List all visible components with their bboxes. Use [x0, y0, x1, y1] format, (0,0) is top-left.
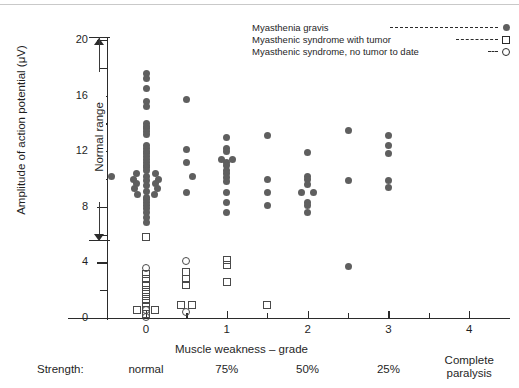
strength-value: normal: [106, 363, 186, 375]
data-point-series-1: [133, 306, 141, 314]
data-point-series-0: [304, 209, 311, 216]
data-point-series-0: [223, 148, 230, 155]
normal-range-label: Normal range: [92, 72, 106, 202]
y-tick-label: 4: [62, 255, 88, 267]
data-point-series-0: [385, 184, 392, 191]
data-point-series-0: [310, 189, 317, 196]
data-point-series-0: [223, 189, 230, 196]
y-tick-minor: [100, 290, 107, 291]
data-point-series-2: [182, 308, 190, 316]
y-tick-major: [97, 262, 107, 263]
legend-item: Myasthenia gravis: [252, 22, 510, 33]
data-point-series-0: [143, 131, 150, 138]
data-point-series-0: [108, 173, 115, 180]
x-axis-line: [68, 318, 510, 319]
data-point-series-0: [143, 85, 150, 92]
data-point-series-0: [298, 189, 305, 196]
legend-marker-filled-circle: [503, 24, 510, 31]
data-points-layer: [108, 40, 438, 318]
data-point-series-0: [189, 173, 196, 180]
strength-value: Completeparalysis: [429, 354, 509, 379]
x-tick-label: 3: [371, 323, 405, 335]
legend-item: Myasthenic syndrome, no tumor to date: [252, 46, 510, 57]
legend-dash: [488, 51, 498, 52]
data-point-series-1: [188, 301, 196, 309]
data-point-series-1: [223, 278, 231, 286]
data-point-series-0: [385, 142, 392, 149]
legend-item: Myasthenic syndrome with tumor: [252, 34, 510, 45]
y-tick-label: 12: [62, 144, 88, 156]
data-point-series-2: [142, 313, 150, 321]
data-point-series-0: [223, 134, 230, 141]
data-point-series-2: [182, 257, 190, 265]
data-point-series-1: [223, 261, 231, 269]
y-tick-label: 8: [62, 200, 88, 212]
legend-label: Myasthenic syndrome, no tumor to date: [252, 46, 419, 57]
chart-figure: 048121620 01234 Amplitude of action pote…: [0, 0, 519, 388]
x-tick-label: 1: [210, 323, 244, 335]
y-tick-label: 16: [62, 89, 88, 101]
data-point-series-0: [264, 189, 271, 196]
page-top-rule: [0, 4, 519, 5]
x-tick-label: 0: [129, 323, 163, 335]
data-point-series-0: [264, 132, 271, 139]
legend-dash: [456, 39, 498, 40]
y-tick-label: 0: [62, 311, 88, 323]
y-tick-label: 20: [62, 33, 88, 45]
strength-row-label: Strength:: [37, 363, 84, 375]
data-point-series-2: [142, 264, 150, 272]
data-point-series-1: [182, 281, 190, 289]
legend-dash: [390, 27, 498, 28]
y-tick-major: [97, 318, 107, 319]
data-point-series-0: [223, 178, 230, 185]
data-point-series-0: [183, 159, 190, 166]
data-point-series-0: [385, 150, 392, 157]
x-axis-title: Muscle weakness – grade: [175, 343, 308, 355]
data-point-series-0: [151, 191, 158, 198]
x-tick-label: 4: [452, 323, 486, 335]
legend-marker-open-square: [502, 36, 510, 44]
x-tick-label: 2: [291, 323, 325, 335]
data-point-series-0: [304, 149, 311, 156]
data-point-series-0: [183, 96, 190, 103]
x-tick-major: [469, 311, 470, 319]
legend-label: Myasthenic syndrome with tumor: [252, 34, 391, 45]
strength-value: 50%: [268, 363, 348, 375]
data-point-series-0: [385, 132, 392, 139]
strength-value: 25%: [348, 363, 428, 375]
data-point-series-0: [385, 177, 392, 184]
data-point-series-1: [263, 301, 271, 309]
data-point-series-0: [183, 189, 190, 196]
data-point-series-1: [142, 233, 150, 241]
data-point-series-0: [143, 219, 150, 226]
data-point-series-0: [143, 103, 150, 110]
data-point-series-0: [345, 177, 352, 184]
data-point-series-0: [183, 146, 190, 153]
data-point-series-0: [264, 176, 271, 183]
normal-range-bottom-cap: [89, 240, 110, 241]
data-point-series-1: [151, 306, 159, 314]
data-point-series-0: [345, 263, 352, 270]
legend-marker-open-circle: [502, 48, 510, 56]
data-point-series-0: [264, 202, 271, 209]
data-point-series-0: [223, 209, 230, 216]
data-point-series-0: [223, 199, 230, 206]
legend: Myasthenia gravisMyasthenic syndrome wit…: [252, 22, 510, 58]
data-point-series-0: [134, 191, 141, 198]
data-point-series-0: [345, 127, 352, 134]
y-axis-title: Amplitude of action potential (μV): [15, 5, 27, 255]
strength-value: 75%: [187, 363, 267, 375]
data-point-series-0: [304, 181, 311, 188]
data-point-series-0: [143, 75, 150, 82]
legend-label: Myasthenia gravis: [252, 22, 329, 33]
data-point-series-0: [304, 202, 311, 209]
y-tick-minor: [100, 68, 107, 69]
